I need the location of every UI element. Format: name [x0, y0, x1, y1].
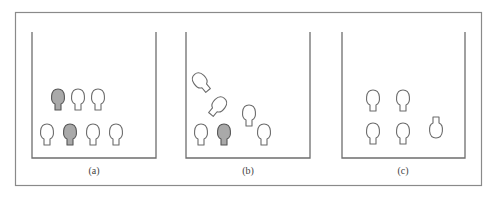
bulb-filled: [218, 124, 231, 145]
bulb-empty: [397, 123, 410, 144]
bulb-empty: [87, 124, 100, 145]
outer-frame: [16, 13, 482, 186]
bulb-empty: [243, 105, 256, 126]
bulb-empty: [92, 89, 105, 110]
bulb-empty: [110, 124, 123, 145]
panel-label-a: (a): [88, 165, 99, 177]
bulbs-a: [41, 89, 123, 145]
bulb-empty: [258, 124, 271, 145]
panel-label-c: (c): [397, 165, 408, 177]
panel-a: (a): [32, 32, 156, 177]
bulb-empty: [72, 89, 85, 110]
bulb-empty: [367, 90, 380, 111]
bulbs-c: [367, 90, 443, 144]
bulb-empty: [190, 70, 213, 94]
bulb-filled: [64, 124, 77, 145]
bulb-empty: [367, 123, 380, 144]
bulb-empty: [195, 124, 208, 145]
panel-c: (c): [342, 32, 465, 177]
bulbs-b: [190, 70, 271, 145]
panel-b: (b): [186, 32, 310, 177]
panel-label-b: (b): [242, 165, 254, 177]
bulb-empty: [41, 124, 54, 145]
bulb-filled: [52, 89, 65, 110]
bulb-empty: [430, 117, 443, 138]
figure: (a) (b) (c): [0, 0, 495, 199]
bulb-empty: [206, 94, 229, 118]
bulb-empty: [397, 90, 410, 111]
